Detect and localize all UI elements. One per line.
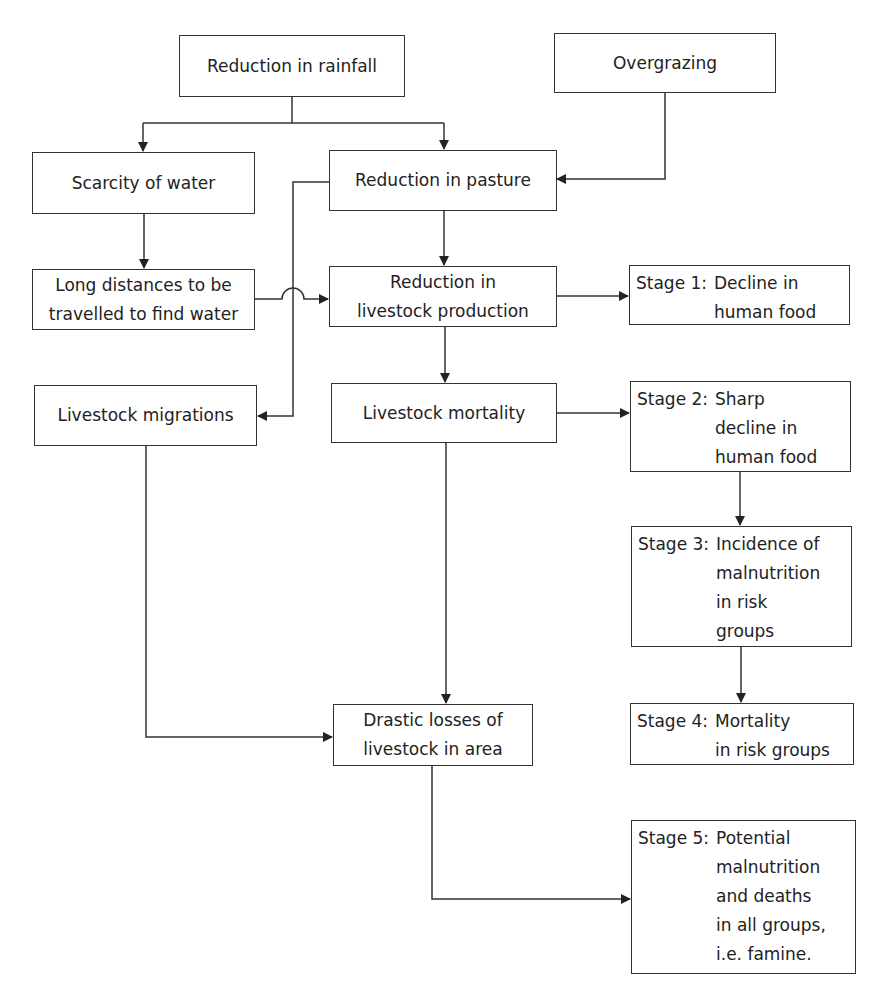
- node-text: in risk: [716, 588, 820, 617]
- node-livestock-migrations: Livestock migrations: [34, 385, 257, 446]
- node-text: human food: [714, 298, 816, 327]
- node-overgrazing: Overgrazing: [554, 33, 776, 93]
- stage-label: Stage 5:: [638, 824, 716, 969]
- node-reduction-in-livestock-production: Reduction in livestock production: [329, 266, 557, 327]
- stage-label: Stage 4:: [637, 707, 715, 765]
- node-text: Livestock migrations: [57, 401, 233, 430]
- node-text: Sharp: [715, 385, 817, 414]
- node-reduction-in-pasture: Reduction in pasture: [329, 150, 557, 211]
- node-text: Reduction in rainfall: [207, 52, 377, 81]
- node-text: in risk groups: [715, 736, 830, 765]
- node-stage-5: Stage 5: Potential malnutrition and deat…: [631, 820, 856, 974]
- node-stage-2: Stage 2: Sharp decline in human food: [630, 381, 851, 472]
- node-text: Livestock mortality: [363, 399, 525, 428]
- node-text: livestock in area: [363, 735, 502, 764]
- node-text: in all groups,: [716, 911, 826, 940]
- node-drastic-losses: Drastic losses of livestock in area: [333, 704, 533, 766]
- node-text: Reduction in: [390, 268, 496, 297]
- node-long-distances: Long distances to be travelled to find w…: [32, 269, 255, 330]
- stage-label: Stage 2:: [637, 385, 715, 472]
- node-text: Potential: [716, 824, 826, 853]
- node-stage-3: Stage 3: Incidence of malnutrition in ri…: [631, 526, 852, 647]
- node-text: groups: [716, 617, 820, 646]
- node-stage-4: Stage 4: Mortality in risk groups: [630, 703, 854, 765]
- node-scarcity-of-water: Scarcity of water: [32, 152, 255, 214]
- node-text: malnutrition: [716, 853, 826, 882]
- node-text: decline in: [715, 414, 817, 443]
- node-text: travelled to find water: [49, 300, 238, 329]
- stage-label: Stage 3:: [638, 530, 716, 646]
- node-livestock-mortality: Livestock mortality: [331, 383, 557, 443]
- node-text: Reduction in pasture: [355, 166, 531, 195]
- node-stage-1: Stage 1: Decline in human food: [629, 265, 850, 325]
- node-text: Scarcity of water: [72, 169, 216, 198]
- node-text: i.e. famine.: [716, 940, 826, 969]
- node-text: and deaths: [716, 882, 826, 911]
- node-text: Incidence of: [716, 530, 820, 559]
- node-text: Long distances to be: [55, 271, 232, 300]
- node-text: livestock production: [357, 297, 529, 326]
- node-reduction-in-rainfall: Reduction in rainfall: [179, 35, 405, 97]
- node-text: malnutrition: [716, 559, 820, 588]
- stage-label: Stage 1:: [636, 269, 714, 327]
- node-text: Drastic losses of: [363, 706, 502, 735]
- node-text: Overgrazing: [613, 49, 717, 78]
- node-text: Mortality: [715, 707, 830, 736]
- node-text: Decline in: [714, 269, 816, 298]
- node-text: human food: [715, 443, 817, 472]
